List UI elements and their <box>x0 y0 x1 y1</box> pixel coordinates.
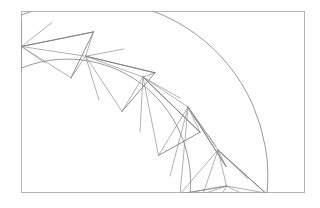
geometry-figure-svg <box>0 0 320 208</box>
fan-5-spoke-1 <box>218 150 226 167</box>
fan-5-spoke-5 <box>203 150 218 194</box>
outer-arc <box>19 0 268 194</box>
fan-2-spoke-4 <box>86 56 143 77</box>
radial-cuts <box>71 32 227 194</box>
triangle-fan-3 <box>122 73 200 156</box>
figure-root <box>0 0 320 208</box>
inner-arc <box>19 59 191 194</box>
radial-cut-2 <box>122 73 155 112</box>
fan-4-spoke-4 <box>188 107 218 150</box>
fan-4-spoke-3 <box>188 107 226 167</box>
fan-3-spoke-7 <box>122 77 143 112</box>
fan-4-spoke-7 <box>159 107 189 156</box>
fan-1-spoke-3 <box>22 32 94 47</box>
chord-edges <box>22 32 266 193</box>
plot-border <box>22 12 305 193</box>
fan-2-spoke-2 <box>86 49 124 56</box>
fan-3-spoke-3 <box>143 77 200 132</box>
fan-3-spoke-6 <box>140 77 143 132</box>
triangle-fan-1 <box>21 20 94 78</box>
triangle-fan-4 <box>159 107 227 194</box>
fan-1-spoke-4 <box>22 47 86 57</box>
fan-4-spoke-1 <box>188 107 200 132</box>
fan-1-spoke-6 <box>22 47 46 64</box>
fan-6-spoke-1 <box>227 186 266 193</box>
fan-2-spoke-3 <box>86 56 155 73</box>
fan-2-spoke-1 <box>86 32 94 56</box>
triangle-fan-2 <box>71 32 155 112</box>
annulus-mesh-group <box>19 0 268 194</box>
fan-3-spoke-5 <box>143 77 159 156</box>
fan-3-spoke-4 <box>143 77 188 107</box>
fan-1-spoke-5 <box>22 47 72 78</box>
fan-5-spoke-4 <box>218 150 227 186</box>
radial-cut-3 <box>159 132 201 155</box>
fan-1-spoke-2 <box>22 23 53 47</box>
fan-5-spoke-6 <box>180 150 218 194</box>
